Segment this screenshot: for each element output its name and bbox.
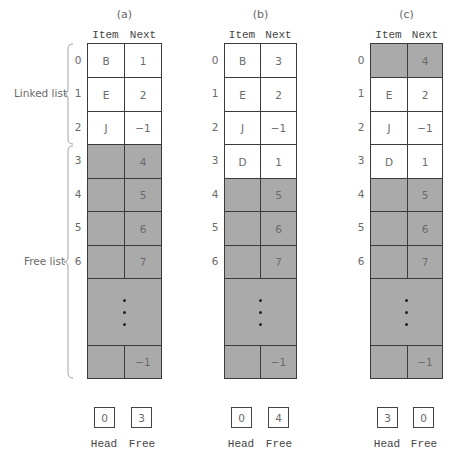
next-column-header: Next [260, 29, 297, 41]
next-cell: 5 [125, 179, 161, 211]
row-index: 5 [210, 221, 220, 233]
next-cell: 7 [125, 246, 161, 278]
panel-caption: (b) [224, 8, 297, 21]
row-index: 4 [210, 188, 220, 200]
ellipsis-dot-icon [405, 323, 408, 326]
table-row: J −1 [371, 111, 442, 144]
row-index: 0 [356, 54, 366, 66]
table-row: J −1 [88, 111, 161, 144]
panel-caption: (c) [370, 8, 443, 21]
row-index: 4 [73, 188, 83, 200]
table-row: B 3 [225, 44, 296, 77]
table-row-last: −1 [225, 345, 296, 378]
table-row: 7 [88, 245, 161, 278]
table-row: 7 [371, 245, 442, 278]
next-cell: 1 [125, 44, 161, 77]
next-cell: 7 [261, 246, 296, 278]
next-cell: −1 [261, 346, 296, 378]
head-box: 0 [94, 407, 115, 428]
item-cell [225, 346, 261, 378]
row-index: 2 [73, 121, 83, 133]
item-cell [371, 212, 408, 245]
next-cell: 6 [261, 212, 296, 245]
table-row: D 1 [225, 144, 296, 178]
next-cell: 1 [408, 145, 442, 178]
head-box: 0 [231, 407, 252, 428]
row-index: 6 [73, 255, 83, 267]
row-index: 3 [73, 154, 83, 166]
ellipsis-dot-icon [405, 311, 408, 314]
row-index: 1 [210, 87, 220, 99]
head-box: 3 [377, 407, 398, 428]
table-row: E 2 [88, 77, 161, 111]
item-cell [225, 246, 261, 278]
table-row: 6 [88, 211, 161, 245]
item-cell [371, 346, 408, 378]
item-cell: B [88, 44, 125, 77]
next-cell: 3 [261, 44, 296, 77]
ellipsis-dot-icon [259, 311, 262, 314]
table-row-last: −1 [371, 345, 442, 378]
next-cell: 5 [261, 179, 296, 211]
table-row: 4 [371, 44, 442, 77]
ellipsis-dot-icon [259, 323, 262, 326]
next-column-header: Next [407, 29, 443, 41]
row-index: 4 [356, 188, 366, 200]
array-table: 4 E 2 J −1 D 1 5 6 7 [370, 43, 443, 379]
row-index: 3 [356, 154, 366, 166]
row-index: 3 [210, 154, 220, 166]
next-cell: 5 [408, 179, 442, 211]
free-list-label: Free list [24, 255, 65, 267]
free-box: 3 [131, 407, 152, 428]
free-label: Free [406, 438, 442, 450]
head-label: Head [223, 438, 259, 450]
row-index: 5 [73, 221, 83, 233]
table-row: J −1 [225, 111, 296, 144]
next-cell: −1 [408, 346, 442, 378]
row-index: 0 [210, 54, 220, 66]
item-cell: B [225, 44, 261, 77]
next-cell: −1 [261, 112, 296, 144]
table-row: E 2 [225, 77, 296, 111]
next-cell: 7 [408, 246, 442, 278]
item-cell [371, 44, 408, 77]
table-row-last: −1 [88, 345, 161, 378]
free-box: 0 [413, 407, 434, 428]
item-cell [88, 212, 125, 245]
row-index: 1 [73, 87, 83, 99]
next-cell: 4 [125, 145, 161, 178]
row-index: 6 [210, 255, 220, 267]
table-row: 5 [88, 178, 161, 211]
item-cell: E [371, 78, 408, 111]
next-cell: 2 [408, 78, 442, 111]
item-cell: D [225, 145, 261, 178]
item-cell: J [225, 112, 261, 144]
next-column-header: Next [124, 29, 162, 41]
array-table: B 3 E 2 J −1 D 1 5 6 7 [224, 43, 297, 379]
table-row: D 1 [371, 144, 442, 178]
row-index: 1 [356, 87, 366, 99]
item-cell [371, 246, 408, 278]
item-cell [88, 246, 125, 278]
row-index: 0 [73, 54, 83, 66]
row-index: 2 [356, 121, 366, 133]
next-cell: 6 [125, 212, 161, 245]
table-row: E 2 [371, 77, 442, 111]
item-column-header: Item [87, 29, 124, 41]
next-cell: 2 [125, 78, 161, 111]
ellipsis-dot-icon [259, 299, 262, 302]
ellipsis-dot-icon [123, 311, 126, 314]
ellipsis-rows [88, 278, 161, 345]
next-cell: 4 [408, 44, 442, 77]
ellipsis-rows [371, 278, 442, 345]
item-cell: E [225, 78, 261, 111]
item-cell: J [371, 112, 408, 144]
item-cell: J [88, 112, 125, 144]
item-cell [225, 179, 261, 211]
row-index: 6 [356, 255, 366, 267]
array-table: B 1 E 2 J −1 4 5 6 7 [87, 43, 162, 379]
next-cell: 6 [408, 212, 442, 245]
item-cell [88, 179, 125, 211]
item-cell [88, 145, 125, 178]
item-column-header: Item [370, 29, 407, 41]
